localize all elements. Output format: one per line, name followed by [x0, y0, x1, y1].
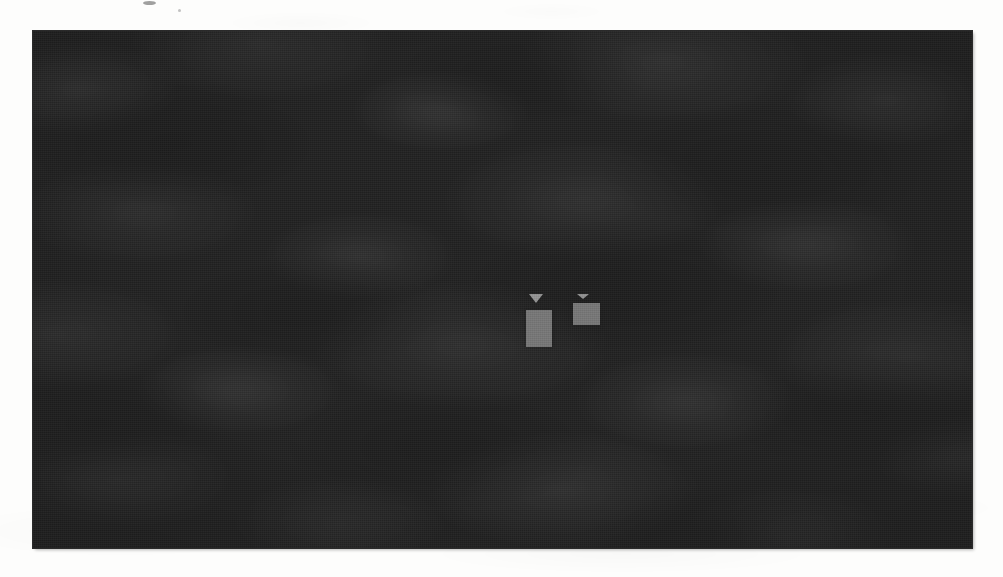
photo-vignette — [33, 31, 972, 548]
marker-left-box — [526, 310, 552, 347]
scan-speck-artifact-secondary — [178, 9, 181, 12]
marker-left — [526, 294, 554, 347]
figure-page: Very dark, coarsely halftoned monochrome… — [0, 0, 1003, 577]
marker-right — [573, 294, 603, 326]
marker-left-label — [526, 294, 527, 295]
down-triangle-icon — [529, 294, 543, 303]
figure-description: Very dark, coarsely halftoned monochrome… — [0, 0, 1, 1]
photo-panel — [33, 31, 972, 548]
scan-speck-artifact — [143, 1, 156, 5]
down-triangle-icon — [577, 294, 589, 299]
marker-right-box — [573, 303, 600, 325]
figure-caption — [0, 0, 1, 1]
marker-right-label — [573, 294, 574, 295]
